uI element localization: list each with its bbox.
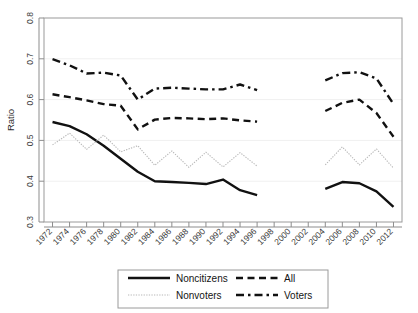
y-tick-label: 0.5: [25, 134, 35, 146]
y-axis-ticks: 0.30.40.50.60.70.8: [25, 12, 44, 228]
x-tick-label: 2002: [289, 226, 310, 247]
x-tick-label: 1994: [221, 226, 242, 247]
x-tick-label: 2012: [374, 226, 395, 247]
x-tick-label: 1986: [153, 226, 174, 247]
x-axis: 1972197419761978198019821984198619881990…: [33, 222, 402, 247]
ratio-line-chart: 0.30.40.50.60.70.8 197219741976197819801…: [0, 0, 418, 313]
x-axis-ticks: 1972197419761978198019821984198619881990…: [33, 222, 395, 247]
x-tick-label: 1998: [255, 226, 276, 247]
plot-area-background: [44, 18, 402, 222]
y-tick-label: 0.4: [25, 175, 35, 187]
y-tick-label: 0.6: [25, 93, 35, 105]
x-tick-label: 1980: [102, 226, 123, 247]
legend-label-all: All: [284, 273, 295, 284]
x-tick-label: 2004: [306, 226, 327, 247]
x-tick-label: 1992: [204, 226, 225, 247]
y-tick-label: 0.7: [25, 53, 35, 65]
x-tick-label: 1974: [51, 226, 72, 247]
legend-label-nonvoters: Nonvoters: [176, 290, 222, 301]
chart-figure: 0.30.40.50.60.70.8 197219741976197819801…: [0, 0, 418, 313]
x-tick-label: 1976: [68, 226, 89, 247]
y-axis-title: Ratio: [5, 109, 16, 131]
x-tick-label: 2000: [272, 226, 293, 247]
x-tick-label: 1972: [33, 226, 54, 247]
x-tick-label: 2006: [323, 226, 344, 247]
x-tick-label: 1982: [119, 226, 140, 247]
y-tick-label: 0.8: [25, 12, 35, 24]
legend-label-voters: Voters: [284, 290, 312, 301]
y-axis: 0.30.40.50.60.70.8: [25, 12, 44, 228]
x-tick-label: 1984: [136, 226, 157, 247]
x-tick-label: 2010: [357, 226, 378, 247]
y-tick-label: 0.3: [25, 216, 35, 228]
x-tick-label: 1978: [85, 226, 106, 247]
x-tick-label: 1988: [170, 226, 191, 247]
chart-legend: NoncitizensAllNonvotersVoters: [118, 270, 328, 308]
x-tick-label: 2008: [340, 226, 361, 247]
x-tick-label: 1990: [187, 226, 208, 247]
legend-label-noncitizens: Noncitizens: [176, 273, 228, 284]
x-tick-label: 1996: [238, 226, 259, 247]
